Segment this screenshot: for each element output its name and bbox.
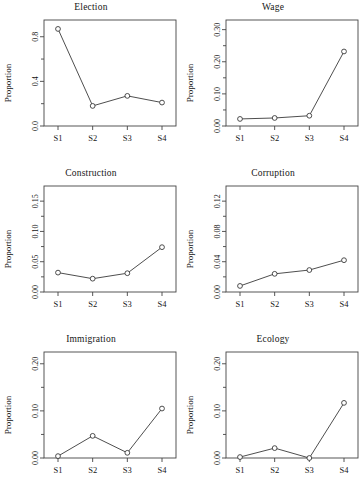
plot-area: 0.000.050.100.15S1S2S3S4 bbox=[0, 166, 182, 332]
chart-panel-election: ElectionProportion0.00.40.8S1S2S3S4 bbox=[0, 0, 182, 166]
data-point bbox=[56, 270, 61, 275]
y-tick-label: 0.30 bbox=[213, 23, 222, 37]
chart-panel-ecology: EcologyProportion0.000.100.20S1S2S3S4 bbox=[182, 332, 364, 498]
x-tick-label-s2: S2 bbox=[88, 133, 97, 143]
data-point bbox=[272, 446, 277, 451]
y-tick-label: 0.20 bbox=[31, 357, 40, 371]
y-tick-label: 0.08 bbox=[213, 224, 222, 238]
x-tick-label-s4: S4 bbox=[340, 299, 350, 309]
y-tick-label: 0.05 bbox=[31, 255, 40, 269]
data-point bbox=[90, 276, 95, 281]
x-tick-label-s2: S2 bbox=[88, 465, 97, 475]
x-tick-label-s3: S3 bbox=[123, 299, 132, 309]
x-tick-label-s3: S3 bbox=[305, 465, 314, 475]
data-point bbox=[238, 117, 243, 122]
y-tick-label: 0.00 bbox=[213, 451, 222, 465]
x-tick-label-s4: S4 bbox=[340, 465, 350, 475]
x-tick-label-s2: S2 bbox=[88, 299, 97, 309]
y-tick-label: 0.00 bbox=[31, 285, 40, 299]
x-tick-label-s2: S2 bbox=[270, 133, 279, 143]
x-tick-label-s4: S4 bbox=[158, 465, 168, 475]
data-point bbox=[342, 400, 347, 405]
data-point bbox=[342, 49, 347, 54]
data-line bbox=[58, 409, 162, 457]
y-tick-label: 0.04 bbox=[213, 255, 222, 269]
y-tick-label: 0.15 bbox=[31, 194, 40, 208]
data-point bbox=[272, 116, 277, 121]
x-tick-label-s1: S1 bbox=[236, 133, 245, 143]
data-point bbox=[160, 406, 165, 411]
x-tick-label-s1: S1 bbox=[236, 465, 245, 475]
data-point bbox=[56, 27, 61, 32]
data-point bbox=[125, 93, 130, 98]
y-tick-label: 0.10 bbox=[31, 224, 40, 238]
x-tick-label-s3: S3 bbox=[123, 133, 132, 143]
plot-area: 0.000.100.200.30S1S2S3S4 bbox=[182, 0, 364, 166]
data-line bbox=[240, 260, 344, 286]
x-tick-label-s1: S1 bbox=[236, 299, 245, 309]
chart-panel-construction: ConstructionProportion0.000.050.100.15S1… bbox=[0, 166, 182, 332]
y-tick-label: 0.00 bbox=[213, 119, 222, 133]
data-line bbox=[240, 403, 344, 458]
data-point bbox=[90, 433, 95, 438]
plot-frame bbox=[44, 20, 176, 126]
x-tick-label-s3: S3 bbox=[305, 299, 314, 309]
data-point bbox=[307, 113, 312, 118]
y-tick-label: 0.10 bbox=[31, 404, 40, 418]
x-tick-label-s4: S4 bbox=[158, 133, 168, 143]
data-point bbox=[238, 455, 243, 460]
x-tick-label-s2: S2 bbox=[270, 299, 279, 309]
chart-panel-immigration: ImmigrationProportion0.000.100.20S1S2S3S… bbox=[0, 332, 182, 498]
y-tick-label: 0.00 bbox=[31, 451, 40, 465]
y-tick-label: 0.4 bbox=[31, 76, 40, 86]
plot-frame bbox=[226, 352, 358, 458]
plot-area: 0.000.100.20S1S2S3S4 bbox=[182, 332, 364, 498]
x-tick-label-s4: S4 bbox=[340, 133, 350, 143]
data-point bbox=[90, 104, 95, 109]
data-point bbox=[307, 456, 312, 461]
data-point bbox=[160, 100, 165, 105]
data-point bbox=[307, 268, 312, 273]
data-point bbox=[56, 454, 61, 459]
data-point bbox=[125, 450, 130, 455]
data-point bbox=[125, 271, 130, 276]
y-tick-label: 0.20 bbox=[213, 357, 222, 371]
plot-frame bbox=[44, 352, 176, 458]
y-tick-label: 0.8 bbox=[31, 32, 40, 42]
y-tick-label: 0.00 bbox=[213, 285, 222, 299]
x-tick-label-s1: S1 bbox=[54, 133, 63, 143]
data-line bbox=[58, 29, 162, 106]
x-tick-label-s3: S3 bbox=[123, 465, 132, 475]
data-point bbox=[342, 258, 347, 263]
x-tick-label-s1: S1 bbox=[54, 299, 63, 309]
plot-frame bbox=[226, 186, 358, 292]
data-point bbox=[272, 271, 277, 276]
x-tick-label-s3: S3 bbox=[305, 133, 314, 143]
x-tick-label-s4: S4 bbox=[158, 299, 168, 309]
chart-panel-wage: WageProportion0.000.100.200.30S1S2S3S4 bbox=[182, 0, 364, 166]
y-tick-label: 0.10 bbox=[213, 87, 222, 101]
data-line bbox=[58, 247, 162, 278]
data-point bbox=[160, 245, 165, 250]
plot-frame bbox=[226, 20, 358, 126]
plot-area: 0.00.40.8S1S2S3S4 bbox=[0, 0, 182, 166]
chart-panel-corruption: CorruptionProportion0.000.040.080.12S1S2… bbox=[182, 166, 364, 332]
y-tick-label: 0.12 bbox=[213, 194, 222, 208]
y-tick-label: 0.20 bbox=[213, 55, 222, 69]
plot-area: 0.000.040.080.12S1S2S3S4 bbox=[182, 166, 364, 332]
y-tick-label: 0.10 bbox=[213, 404, 222, 418]
x-tick-label-s1: S1 bbox=[54, 465, 63, 475]
plot-area: 0.000.100.20S1S2S3S4 bbox=[0, 332, 182, 498]
data-line bbox=[240, 51, 344, 118]
data-point bbox=[238, 284, 243, 289]
y-tick-label: 0.0 bbox=[31, 121, 40, 131]
x-tick-label-s2: S2 bbox=[270, 465, 279, 475]
chart-grid: ElectionProportion0.00.40.8S1S2S3S4WageP… bbox=[0, 0, 364, 498]
